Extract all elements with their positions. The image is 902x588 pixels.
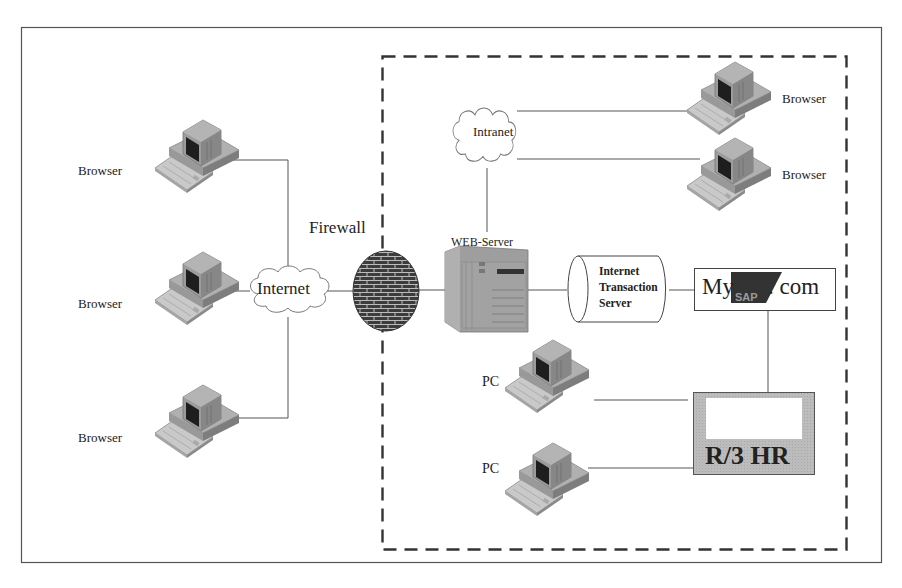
firewall-icon [353,251,419,331]
browser-right-1-icon [687,62,771,135]
browser-left-1-icon [155,120,239,193]
mysap-prefix: My [702,274,734,300]
web-server-icon [445,246,528,332]
its-label-line-2: Transaction [599,279,658,295]
firewall-label: Firewall [309,218,366,238]
browser-left-3-label: Browser [78,430,122,446]
its-label-line-1: Internet [599,263,658,279]
its-label-line-3: Server [599,295,658,311]
web-server-label: WEB-Server [451,235,513,250]
pc-2-icon [505,443,589,516]
browser-left-1-label: Browser [78,163,122,179]
browser-right-1-label: Browser [782,91,826,107]
its-label: Internet Transaction Server [599,263,658,311]
browser-right-2-label: Browser [782,167,826,183]
r3-hr-label: R/3 HR [705,441,790,471]
sap-logo-text: SAP [735,291,758,303]
browser-left-2-label: Browser [78,296,122,312]
internet-label: Internet [257,279,310,299]
r3-hr-screen [706,398,802,439]
pc-1-label: PC [482,374,499,390]
browser-left-2-icon [155,252,239,325]
diagram-canvas: Browser Browser Browser Browser Browser … [0,0,902,588]
browser-left-3-icon [155,385,239,458]
browser-right-2-icon [687,138,771,211]
mysap-suffix: . com [768,274,819,300]
pc-1-icon [505,340,589,413]
pc-2-label: PC [482,461,499,477]
intranet-label: Intranet [473,124,513,140]
